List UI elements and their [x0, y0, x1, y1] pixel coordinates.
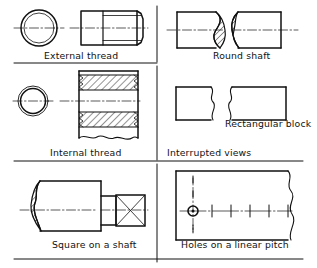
- drawing-canvas: [0, 0, 317, 268]
- caption-square-on-a-shaft: Square on a shaft: [52, 240, 137, 249]
- caption-holes-on-linear-pitch: Holes on a linear pitch: [181, 240, 289, 249]
- panel-round-shaft: [167, 12, 298, 48]
- caption-rectangular-block: Rectangular block: [225, 119, 311, 128]
- panel-internal-thread: [13, 71, 140, 139]
- panel-external-thread: [14, 10, 148, 46]
- square-section-diagonals: [116, 195, 145, 226]
- caption-interrupted-views: Interrupted views: [167, 148, 251, 157]
- panel-rectangular-block: [176, 87, 286, 120]
- caption-internal-thread: Internal thread: [50, 148, 122, 157]
- panel-holes-linear-pitch: [176, 171, 294, 240]
- technical-drawing-sheet: External thread Round shaft Internal thr…: [0, 0, 317, 268]
- caption-external-thread: External thread: [44, 51, 118, 60]
- sheet-dividers: [14, 6, 303, 262]
- hole-centre-marks: [193, 176, 288, 232]
- panel-square-on-shaft: [20, 181, 148, 231]
- caption-round-shaft: Round shaft: [213, 51, 270, 60]
